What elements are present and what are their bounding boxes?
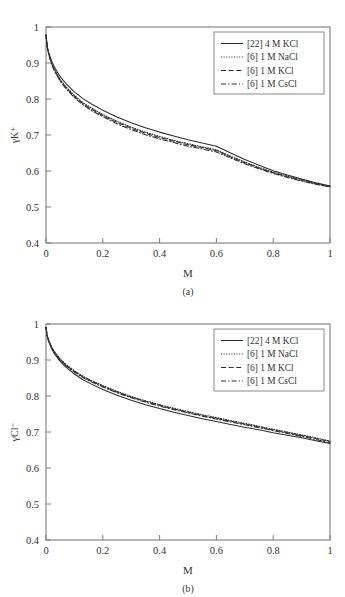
- chart-panel-b: 0.40.50.60.70.80.9100.20.40.60.81MγCl⁻[2…: [0, 297, 345, 597]
- legend-label: [6] 1 M KCl: [247, 363, 294, 373]
- chart-panel-a: 0.40.50.60.70.80.9100.20.40.60.81MγK⁺[22…: [0, 0, 345, 297]
- panel-subcaption: (b): [182, 583, 193, 595]
- legend-label: [6] 1 M CsCl: [247, 376, 297, 386]
- y-tick-label: 1: [34, 22, 39, 33]
- legend-label: [6] 1 M NaCl: [247, 349, 298, 359]
- y-tick-label: 0.6: [26, 166, 39, 177]
- y-tick-label: 0.9: [26, 58, 39, 69]
- figure-page: 0.40.50.60.70.80.9100.20.40.60.81MγK⁺[22…: [0, 0, 345, 597]
- x-tick-label: 0.6: [210, 248, 223, 259]
- legend-label: [6] 1 M CsCl: [247, 79, 297, 89]
- legend-label: [6] 1 M KCl: [247, 66, 294, 76]
- x-tick-label: 0.6: [210, 545, 223, 556]
- x-tick-label: 0.4: [153, 248, 167, 259]
- chart-b-svg: 0.40.50.60.70.80.9100.20.40.60.81MγCl⁻[2…: [0, 297, 345, 597]
- legend-label: [22] 4 M KCl: [247, 336, 299, 346]
- x-tick-label: 1: [327, 545, 332, 556]
- y-tick-label: 0.8: [26, 94, 39, 105]
- x-axis-title: M: [183, 564, 193, 576]
- y-tick-label: 0.4: [26, 238, 40, 249]
- x-tick-label: 0.8: [267, 248, 280, 259]
- y-tick-label: 0.4: [26, 535, 40, 546]
- legend-label: [22] 4 M KCl: [247, 39, 299, 49]
- x-tick-label: 0.2: [96, 545, 109, 556]
- x-tick-label: 0: [43, 248, 48, 259]
- panel-subcaption: (a): [183, 286, 194, 297]
- x-tick-label: 0.2: [96, 248, 109, 259]
- chart-a-svg: 0.40.50.60.70.80.9100.20.40.60.81MγK⁺[22…: [0, 0, 345, 297]
- y-tick-label: 0.6: [26, 463, 39, 474]
- y-tick-label: 0.7: [26, 427, 39, 438]
- y-tick-label: 0.5: [26, 202, 39, 213]
- y-tick-label: 0.7: [26, 130, 39, 141]
- x-tick-label: 1: [327, 248, 332, 259]
- y-axis-title: γK⁺: [9, 127, 20, 145]
- x-tick-label: 0.8: [267, 545, 280, 556]
- x-tick-label: 0: [43, 545, 48, 556]
- y-tick-label: 0.9: [26, 355, 39, 366]
- y-tick-label: 1: [34, 319, 39, 330]
- legend-label: [6] 1 M NaCl: [247, 52, 298, 62]
- y-tick-label: 0.8: [26, 391, 39, 402]
- y-axis-title: γCl⁻: [9, 423, 20, 443]
- y-tick-label: 0.5: [26, 499, 39, 510]
- x-tick-label: 0.4: [153, 545, 167, 556]
- x-axis-title: M: [183, 267, 193, 279]
